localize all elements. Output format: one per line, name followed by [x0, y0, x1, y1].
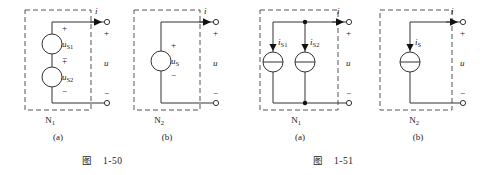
- circuit-panel-1-50-b: + − uS i + − u N2 (b): [126, 4, 238, 144]
- voltage-source-us2: [42, 67, 62, 87]
- current-source-is-arrow: [406, 44, 413, 51]
- source-us1-label: uS1: [62, 39, 73, 50]
- source-us1-plus-sign: +: [62, 23, 67, 33]
- voltage-label-u: u: [104, 58, 109, 68]
- network-label-n1: N1: [291, 115, 301, 126]
- junction-dot-bottom: [303, 101, 307, 105]
- current-label-i: i: [204, 6, 207, 16]
- voltage-label-u: u: [213, 58, 218, 68]
- source-us-plus-sign: +: [171, 40, 176, 50]
- source-us-minus-sign: −: [171, 70, 176, 80]
- voltage-label-u: u: [346, 58, 351, 68]
- network-label-n2: N2: [409, 115, 419, 126]
- panel-caption-b: (b): [162, 132, 173, 142]
- junction-dot-top: [303, 20, 307, 24]
- source-is1-label: iS1: [278, 37, 287, 48]
- network-label-n1: N1: [45, 115, 55, 126]
- terminal-minus-sign: −: [460, 88, 465, 98]
- voltage-label-u: u: [460, 58, 465, 68]
- voltage-source-us1: [42, 34, 62, 54]
- terminal-bottom: [213, 100, 218, 105]
- terminal-top: [460, 19, 465, 24]
- current-arrow-head: [336, 18, 344, 26]
- current-label-i: i: [451, 6, 454, 16]
- circuit-panel-1-51-b: iS i + − u N2 (b): [372, 4, 484, 144]
- circuit-panel-1-50-a: + − uS1 + − uS2 i + − u N1 (a): [14, 4, 126, 144]
- source-is2-label: iS2: [310, 37, 319, 48]
- terminal-top: [104, 19, 109, 24]
- source-us2-minus-sign: −: [62, 86, 67, 96]
- figure-caption-1-51: 图 1-51: [313, 153, 353, 167]
- current-arrow-head: [203, 18, 211, 26]
- current-label-i: i: [337, 6, 340, 16]
- terminal-plus-sign: +: [460, 28, 465, 38]
- source-us2-plus-sign: +: [62, 56, 67, 66]
- current-arrow-head: [450, 18, 458, 26]
- terminal-minus-sign: −: [104, 88, 109, 98]
- source-us2-label: uS2: [62, 72, 73, 83]
- circuit-panel-1-51-a: iS1 iS2 i + − u N1 (a): [250, 4, 368, 144]
- current-source-is1-arrow: [269, 44, 276, 51]
- source-us-label: uS: [171, 56, 180, 67]
- terminal-plus-sign: +: [104, 28, 109, 38]
- terminal-minus-sign: −: [346, 88, 351, 98]
- terminal-top: [213, 19, 218, 24]
- source-is-label: iS: [415, 37, 422, 48]
- terminal-bottom: [104, 100, 109, 105]
- network-boundary-box: [25, 10, 91, 110]
- current-arrow-head: [94, 18, 102, 26]
- panel-caption-b: (b): [413, 132, 424, 142]
- terminal-plus-sign: +: [213, 28, 218, 38]
- figure-caption-1-50: 图 1-50: [82, 153, 122, 167]
- panel-caption-a: (a): [295, 132, 305, 142]
- voltage-source-us: [151, 51, 171, 71]
- terminal-minus-sign: −: [213, 88, 218, 98]
- terminal-bottom: [460, 100, 465, 105]
- network-label-n2: N2: [154, 115, 164, 126]
- current-source-is2-arrow: [301, 44, 308, 51]
- panel-caption-a: (a): [53, 132, 63, 142]
- current-label-i: i: [95, 6, 98, 16]
- terminal-top: [346, 19, 351, 24]
- terminal-bottom: [346, 100, 351, 105]
- terminal-plus-sign: +: [346, 28, 351, 38]
